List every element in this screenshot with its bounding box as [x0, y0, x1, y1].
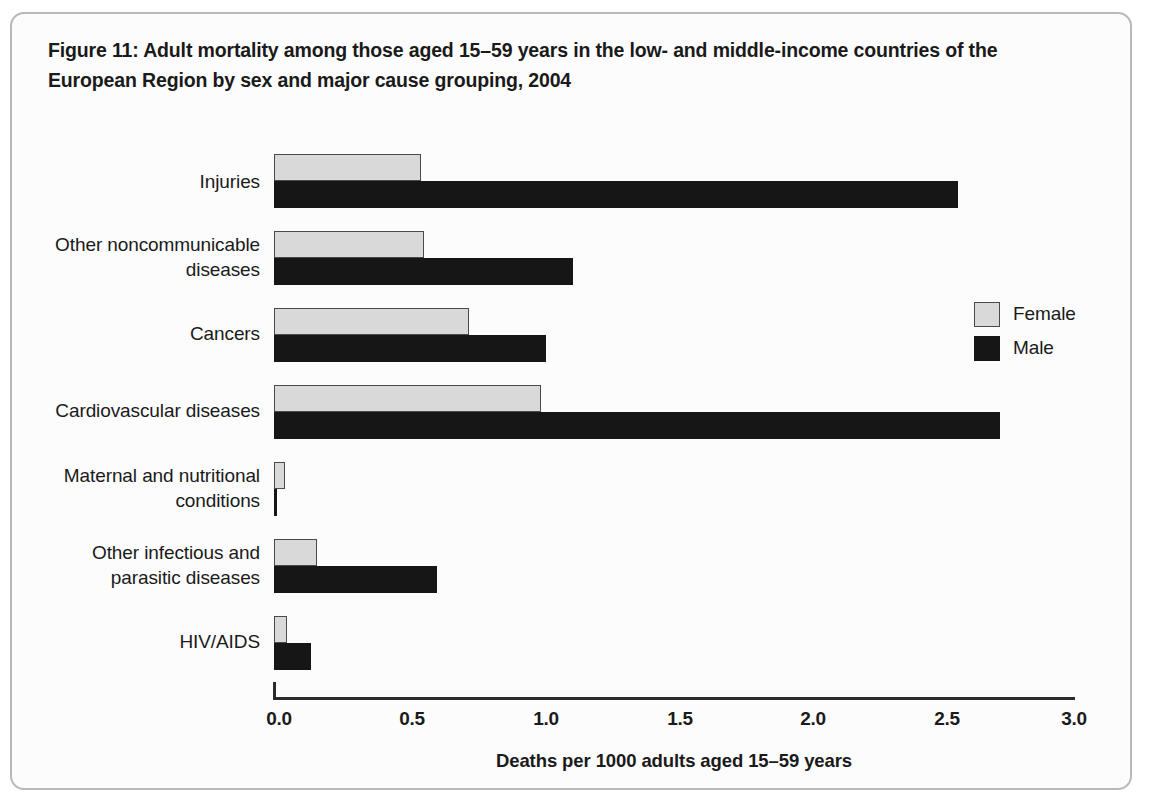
chart-plot-area: Injuries Other noncommunicable diseases … [12, 14, 1130, 788]
legend-label-male: Male [1013, 337, 1054, 359]
category-label: Cancers [190, 322, 260, 346]
x-tick-label: 3.0 [1061, 708, 1087, 730]
bar-male-2 [274, 335, 546, 362]
x-tick-label: 0.0 [266, 708, 292, 730]
bar-male-4 [274, 489, 277, 516]
category-label: Injuries [200, 170, 260, 194]
x-tick-label: 1.5 [667, 708, 693, 730]
legend-swatch-female-icon [974, 302, 1000, 327]
bar-male-3 [274, 412, 1000, 439]
legend-item-female: Female [974, 297, 1076, 331]
category-label-row: Maternal and nutritional conditions [20, 460, 260, 517]
bar-male-6 [274, 643, 311, 670]
category-label-row: Cardiovascular diseases [20, 383, 260, 440]
x-tick-label: 2.5 [934, 708, 960, 730]
category-label: Cardiovascular diseases [55, 399, 260, 423]
x-axis-line [273, 697, 1075, 700]
bar-female-4 [274, 462, 285, 489]
bar-female-5 [274, 539, 317, 566]
x-axis-title: Deaths per 1000 adults aged 15–59 years [273, 750, 1075, 772]
legend-swatch-male-icon [974, 336, 1000, 361]
legend-label-female: Female [1013, 303, 1076, 325]
category-label-row: HIV/AIDS [20, 614, 260, 671]
bar-male-1 [274, 258, 573, 285]
x-tick-label: 2.0 [800, 708, 826, 730]
legend-item-male: Male [974, 331, 1076, 365]
x-tick-label: 0.5 [399, 708, 425, 730]
category-label-row: Other noncommunicable diseases [20, 229, 260, 286]
x-tick-label: 1.0 [533, 708, 559, 730]
figure-frame: Figure 11: Adult mortality among those a… [10, 12, 1132, 790]
bar-female-2 [274, 308, 469, 335]
bar-female-1 [274, 231, 424, 258]
bars-region [274, 142, 1074, 684]
category-label: Maternal and nutritional conditions [20, 464, 260, 513]
bar-female-0 [274, 154, 421, 181]
bar-male-5 [274, 566, 437, 593]
category-label: Other infectious and parasitic diseases [20, 541, 260, 590]
bar-male-0 [274, 181, 958, 208]
category-label: HIV/AIDS [180, 630, 261, 654]
bar-female-3 [274, 385, 541, 412]
category-label-row: Injuries [20, 154, 260, 211]
category-label-row: Cancers [20, 306, 260, 363]
chart-legend: Female Male [974, 297, 1076, 365]
category-label: Other noncommunicable diseases [20, 233, 260, 282]
category-label-row: Other infectious and parasitic diseases [20, 537, 260, 594]
bar-female-6 [274, 616, 287, 643]
